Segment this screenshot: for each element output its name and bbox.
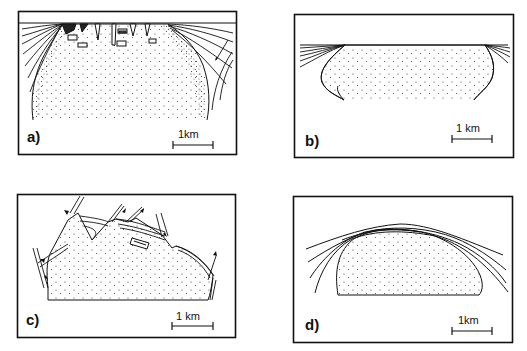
figure-canvas: [0, 0, 527, 351]
panel-b-scale-label: 1 km: [456, 122, 480, 134]
panel-d-scale-bar: [452, 327, 492, 335]
panel-c-scale-bar: [172, 322, 213, 330]
panel-d: [294, 197, 513, 343]
panel-d-label: d): [305, 316, 319, 333]
panel-d-scale-label: 1km: [458, 314, 479, 326]
panel-c: [18, 195, 236, 338]
panel-b-label: b): [305, 132, 319, 149]
panel-a-scale-bar: [173, 141, 213, 149]
panel-b-scale-bar: [452, 135, 492, 143]
panel-c-label: c): [26, 311, 39, 328]
panel-a-scale-label: 1km: [178, 128, 199, 140]
panel-b: [295, 15, 514, 158]
panel-a: [19, 12, 237, 155]
panel-d-intrusion: [337, 229, 483, 295]
panel-a-label: a): [27, 128, 40, 145]
panel-c-scale-label: 1 km: [176, 310, 200, 322]
